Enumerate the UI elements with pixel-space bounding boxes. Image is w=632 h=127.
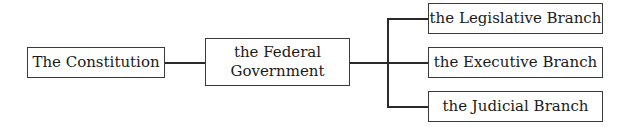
constitution-box: The Constitution xyxy=(27,47,165,78)
connector-constitution-federal xyxy=(165,62,205,64)
judicial-label: the Judicial Branch xyxy=(443,97,589,116)
judicial-branch-box: the Judicial Branch xyxy=(428,91,603,122)
connector-executive xyxy=(387,62,428,64)
connector-legislative xyxy=(387,18,428,20)
executive-branch-box: the Executive Branch xyxy=(428,47,603,78)
legislative-branch-box: the Legislative Branch xyxy=(428,3,603,34)
federal-government-box: the Federal Government xyxy=(205,38,350,86)
federal-label-line1: the Federal xyxy=(234,43,321,62)
federal-label-line2: Government xyxy=(231,62,325,81)
legislative-label: the Legislative Branch xyxy=(430,9,602,28)
connector-federal-trunk xyxy=(350,62,388,64)
executive-label: the Executive Branch xyxy=(434,53,597,72)
connector-judicial xyxy=(387,106,428,108)
constitution-label: The Constitution xyxy=(32,53,159,72)
